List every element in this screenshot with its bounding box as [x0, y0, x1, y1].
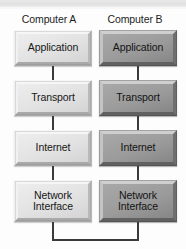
column-header-computer-a: Computer A	[6, 13, 92, 25]
layer-label-line2: Interface	[33, 200, 73, 212]
connector-a-transport-internet	[52, 116, 54, 130]
layer-label-line1: Network	[34, 189, 72, 201]
layer-box-a-network-interface[interactable]: Network Interface	[14, 180, 92, 222]
layer-box-a-internet[interactable]: Internet	[14, 130, 92, 166]
layer-label: Application	[111, 42, 165, 54]
connector-a-application-transport	[52, 66, 54, 80]
network-link-right-segment	[137, 222, 139, 241]
layer-label: Application	[26, 42, 80, 54]
layer-box-b-application[interactable]: Application	[99, 30, 177, 66]
layer-box-b-transport[interactable]: Transport	[99, 80, 177, 116]
scan-top-band	[0, 0, 186, 9]
column-header-computer-b: Computer B	[92, 13, 178, 25]
layer-label: Internet	[34, 142, 73, 154]
connector-b-internet-network-interface	[137, 166, 139, 180]
layer-box-a-transport[interactable]: Transport	[14, 80, 92, 116]
layer-label: Internet	[119, 142, 158, 154]
layer-box-a-application[interactable]: Application	[14, 30, 92, 66]
layer-box-b-internet[interactable]: Internet	[99, 130, 177, 166]
layer-label: Network Interface	[31, 190, 75, 213]
layer-label-line2: Interface	[118, 200, 158, 212]
connector-b-application-transport	[137, 66, 139, 80]
diagram-canvas: Computer A Computer B Application Transp…	[0, 0, 186, 249]
layer-label: Transport	[29, 92, 77, 104]
connector-a-internet-network-interface	[52, 166, 54, 180]
network-link-bottom-segment	[52, 239, 139, 241]
layer-label: Network Interface	[116, 190, 160, 213]
connector-b-transport-internet	[137, 116, 139, 130]
layer-box-b-network-interface[interactable]: Network Interface	[99, 180, 177, 222]
layer-label: Transport	[114, 92, 162, 104]
layer-label-line1: Network	[119, 189, 157, 201]
